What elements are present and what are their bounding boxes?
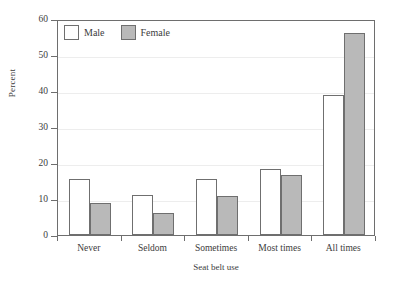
y-axis-tick-label: 50 (22, 51, 48, 61)
x-axis-title: Seat belt use (57, 262, 375, 272)
legend-label-female: Female (141, 27, 170, 38)
y-axis-tick (51, 20, 57, 21)
legend: MaleFemale (64, 25, 179, 40)
x-axis-tick-label: All times (298, 243, 388, 253)
y-axis-tick-label: 40 (22, 87, 48, 97)
bar-male-seldom (132, 195, 153, 235)
y-axis-tick (51, 200, 57, 201)
legend-swatch-female (121, 25, 136, 40)
bar-male-most-times (260, 169, 281, 235)
x-axis-tick (311, 236, 312, 241)
x-axis-tick (121, 236, 122, 241)
bar-male-sometimes (196, 179, 217, 235)
y-axis-tick (51, 164, 57, 165)
bar-female-most-times (281, 175, 302, 235)
y-axis-tick-label: 20 (22, 159, 48, 169)
legend-label-male: Male (84, 27, 105, 38)
x-axis-tick (375, 236, 376, 241)
legend-item-female: Female (121, 25, 170, 40)
bar-female-all-times (344, 33, 365, 235)
bar-male-never (69, 179, 90, 235)
y-axis-tick-label: 10 (22, 195, 48, 205)
x-axis-tick (184, 236, 185, 241)
bar-female-seldom (153, 213, 174, 235)
y-axis-tick (51, 92, 57, 93)
seat-belt-use-bar-chart: Percent 0102030405060 NeverSeldomSometim… (0, 0, 393, 284)
y-axis-tick-label: 30 (22, 123, 48, 133)
gridline (58, 57, 374, 58)
x-axis-tick (57, 236, 58, 241)
y-axis-title: Percent (7, 43, 17, 123)
bar-male-all-times (323, 95, 344, 235)
x-axis-tick (248, 236, 249, 241)
y-axis-tick-label: 60 (22, 15, 48, 25)
legend-swatch-male (64, 25, 79, 40)
y-axis-tick (51, 128, 57, 129)
bar-female-never (90, 203, 111, 235)
legend-item-male: Male (64, 25, 105, 40)
y-axis-tick (51, 56, 57, 57)
plot-area (57, 20, 375, 236)
bar-female-sometimes (217, 196, 238, 235)
y-axis-tick-label: 0 (22, 231, 48, 241)
